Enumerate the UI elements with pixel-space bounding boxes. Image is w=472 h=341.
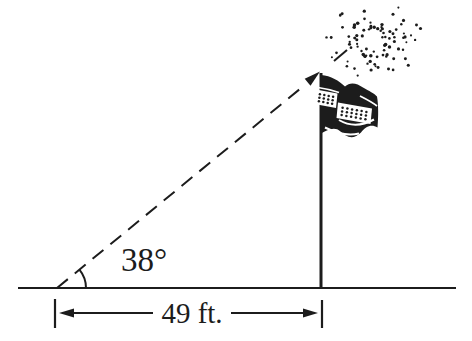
figure-canvas: 38° 49 ft. xyxy=(0,0,472,341)
flag xyxy=(315,75,379,137)
firework-burst-icon xyxy=(325,7,422,77)
sight-line xyxy=(57,84,306,288)
diagram-svg: 38° 49 ft. xyxy=(0,0,472,341)
dimension-arrow-left-icon xyxy=(59,308,74,317)
sight-line-arrowhead-icon xyxy=(305,72,320,86)
distance-label: 49 ft. xyxy=(161,297,222,329)
dimension-arrow-right-icon xyxy=(303,308,318,317)
dimension: 49 ft. xyxy=(55,297,322,329)
angle-label: 38° xyxy=(121,242,167,278)
angle-arc xyxy=(79,270,86,288)
